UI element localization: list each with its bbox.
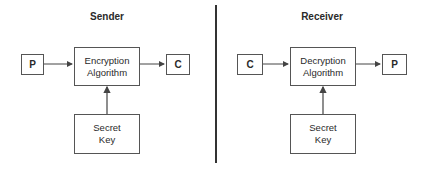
receiver-ciphertext-box: C	[237, 54, 263, 75]
encryption-algorithm-box: Encryption Algorithm	[74, 47, 140, 86]
sender-key-line2: Key	[99, 134, 115, 146]
receiver-plaintext-box: P	[382, 54, 407, 75]
sender-key-line1: Secret	[93, 122, 120, 134]
sender-receiver-divider	[215, 5, 217, 163]
decryption-algorithm-box: Decryption Algorithm	[290, 47, 356, 86]
receiver-title: Receiver	[272, 11, 372, 22]
sender-title: Sender	[57, 11, 157, 22]
receiver-key-line1: Secret	[309, 122, 336, 134]
sender-ciphertext-box: C	[166, 54, 190, 75]
sender-secret-key-box: Secret Key	[74, 114, 140, 154]
sender-plaintext-box: P	[21, 54, 44, 75]
receiver-key-line2: Key	[315, 134, 331, 146]
receiver-secret-key-box: Secret Key	[290, 114, 356, 154]
